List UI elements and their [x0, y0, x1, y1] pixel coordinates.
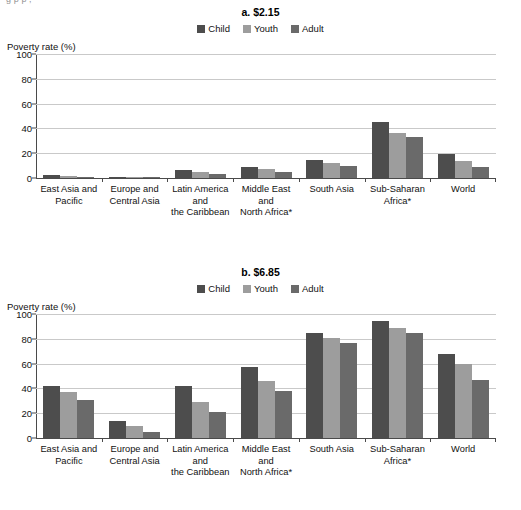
bar: [192, 402, 209, 438]
bar: [275, 391, 292, 438]
panel-a-x-axis-labels: East Asia andPacificEurope andCentral As…: [36, 184, 496, 219]
x-axis-tick: [430, 178, 431, 182]
chart-panel-a: a. $2.15 Child Youth Adult Poverty rate …: [0, 6, 521, 219]
x-axis-label: Sub-SaharanAfrica*: [365, 184, 431, 219]
bar-group: [36, 314, 102, 438]
x-axis-label: Latin Americaandthe Caribbean: [167, 444, 233, 479]
legend-label-youth: Youth: [254, 24, 278, 34]
legend-swatch-adult: [291, 25, 299, 33]
x-axis-tick: [365, 178, 366, 182]
legend-item-child: Child: [197, 24, 230, 34]
bar-group: [233, 54, 299, 178]
panel-b-title: b. $6.85: [0, 266, 521, 279]
bar-group: [36, 54, 102, 178]
bar: [455, 364, 472, 438]
legend-label-adult: Adult: [302, 284, 324, 294]
x-axis-tick: [365, 438, 366, 442]
bar: [175, 386, 192, 438]
x-axis-tick: [299, 438, 300, 442]
y-tick-label-100: 100: [16, 49, 36, 60]
x-axis-tick: [233, 438, 234, 442]
bar: [60, 392, 77, 438]
bar: [175, 170, 192, 178]
y-tick-label-20: 20: [21, 408, 36, 419]
legend-item-youth: Youth: [243, 24, 278, 34]
y-tick-label-60: 60: [21, 98, 36, 109]
y-tick-label-60: 60: [21, 358, 36, 369]
bar: [389, 133, 406, 178]
legend-swatch-child: [197, 25, 205, 33]
bar: [209, 174, 226, 178]
panel-a-title: a. $2.15: [0, 6, 521, 19]
x-axis-label: South Asia: [299, 444, 365, 479]
y-tick-label-80: 80: [21, 73, 36, 84]
bar: [406, 137, 423, 178]
bar: [109, 177, 126, 178]
bar: [126, 177, 143, 178]
gridline-0: [36, 438, 496, 439]
bar-group: [299, 54, 365, 178]
panel-a-plot-area: 100806040200: [36, 54, 496, 178]
y-tick-label-100: 100: [16, 309, 36, 320]
x-axis-tick: [233, 178, 234, 182]
legend-item-youth: Youth: [243, 284, 278, 294]
bar-groups: [36, 54, 496, 178]
x-axis-tick: [495, 178, 496, 182]
x-axis-label: East Asia andPacific: [36, 444, 102, 479]
bar: [438, 354, 455, 438]
bar-group: [167, 314, 233, 438]
panel-b-x-axis-labels: East Asia andPacificEurope andCentral As…: [36, 444, 496, 479]
legend-label-adult: Adult: [302, 24, 324, 34]
bar-group: [233, 314, 299, 438]
bar: [306, 333, 323, 438]
y-tick-label-20: 20: [21, 148, 36, 159]
bar-group: [299, 314, 365, 438]
legend-label-child: Child: [208, 284, 230, 294]
bar-group: [430, 54, 496, 178]
x-axis-tick: [167, 438, 168, 442]
bar: [77, 177, 94, 178]
y-tick-label-40: 40: [21, 123, 36, 134]
x-axis-label: Europe andCentral Asia: [102, 184, 168, 219]
x-axis-tick: [495, 438, 496, 442]
legend-swatch-adult: [291, 285, 299, 293]
legend-swatch-youth: [243, 285, 251, 293]
bar-group: [365, 314, 431, 438]
bar: [323, 338, 340, 438]
legend-swatch-youth: [243, 25, 251, 33]
x-axis-tick: [299, 178, 300, 182]
legend-label-child: Child: [208, 24, 230, 34]
bar: [455, 161, 472, 178]
legend-label-youth: Youth: [254, 284, 278, 294]
bar: [340, 343, 357, 438]
bar: [472, 167, 489, 178]
chart-panel-b: b. $6.85 Child Youth Adult Poverty rate …: [0, 266, 521, 479]
bar-group: [102, 314, 168, 438]
x-axis-label: Middle EastandNorth Africa*: [233, 184, 299, 219]
x-axis-label: Middle EastandNorth Africa*: [233, 444, 299, 479]
bar: [275, 172, 292, 178]
bar: [406, 333, 423, 438]
panel-a-legend: Child Youth Adult: [0, 23, 521, 35]
y-tick-label-0: 0: [27, 433, 36, 444]
bar: [472, 380, 489, 438]
x-axis-label: East Asia andPacific: [36, 184, 102, 219]
x-axis-label: World: [430, 184, 496, 219]
bar: [372, 122, 389, 178]
bar: [43, 386, 60, 438]
bar-groups: [36, 314, 496, 438]
bar: [389, 328, 406, 438]
y-tick-label-40: 40: [21, 383, 36, 394]
gridline-0: [36, 178, 496, 179]
x-axis-label: Latin Americaandthe Caribbean: [167, 184, 233, 219]
x-axis-tick: [102, 178, 103, 182]
x-axis-label: World: [430, 444, 496, 479]
bar: [258, 381, 275, 438]
bar: [306, 160, 323, 178]
legend-item-adult: Adult: [291, 24, 324, 34]
legend-item-adult: Adult: [291, 284, 324, 294]
bar: [43, 175, 60, 178]
x-axis-label: South Asia: [299, 184, 365, 219]
bar: [192, 172, 209, 178]
panel-a-y-axis-title: Poverty rate (%): [7, 41, 521, 52]
